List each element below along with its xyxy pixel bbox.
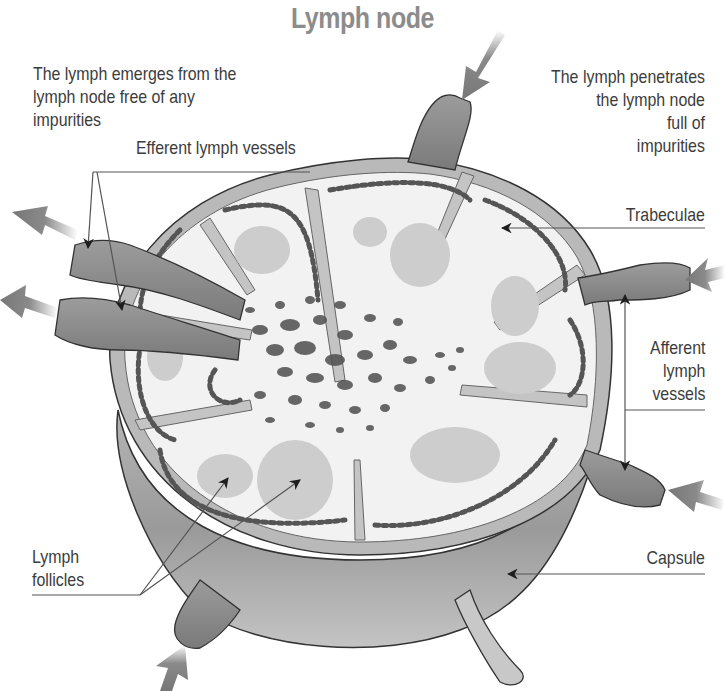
- label-lymph-follicles: Lymph follicles: [32, 545, 84, 591]
- label-efferent-lymph-vessels: Efferent lymph vessels: [136, 136, 296, 159]
- diagram-title: Lymph node: [51, 2, 675, 35]
- inbound-arrow-right-upper: [685, 258, 725, 292]
- label-trabeculae: Trabeculae: [626, 203, 705, 226]
- label-lymph-penetrates: The lymph penetrates the lymph node full…: [551, 65, 705, 157]
- label-afferent-lymph-vessels: Afferent lymph vessels: [650, 336, 705, 405]
- efferent-pointer-1: [88, 172, 93, 248]
- afferent-vessel-top: [408, 95, 471, 170]
- inbound-arrow-right-lower: [668, 480, 725, 512]
- label-capsule: Capsule: [647, 546, 705, 569]
- outbound-arrow-lower-left: [0, 285, 58, 318]
- afferent-vessel-right-lower: [580, 450, 665, 507]
- outbound-arrow-upper-left: [12, 206, 78, 240]
- inbound-arrow-bottom-left: [156, 645, 188, 691]
- lymph-node-diagram: Lymph node The lymph emerges from the ly…: [0, 0, 725, 691]
- inbound-arrow-top: [462, 30, 505, 100]
- label-lymph-emerges: The lymph emerges from the lymph node fr…: [33, 62, 236, 131]
